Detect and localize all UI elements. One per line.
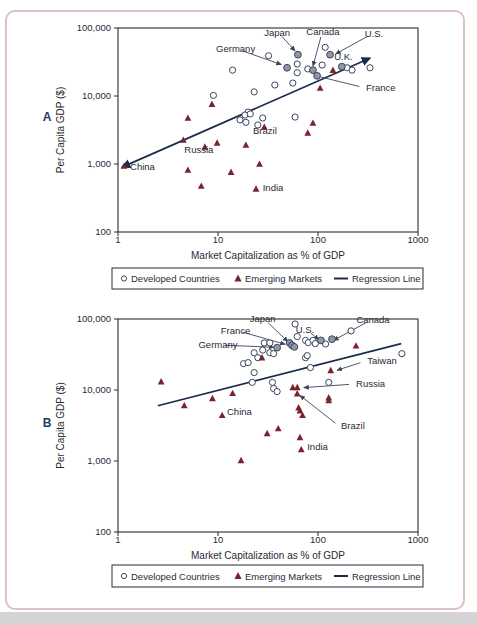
data-point-emerging bbox=[298, 446, 305, 452]
x-tick-label: 1 bbox=[115, 534, 120, 545]
x-tick-label: 10 bbox=[213, 234, 224, 245]
y-axis-title: Per Capita GDP ($) bbox=[55, 382, 66, 469]
data-point-developed-highlighted bbox=[284, 64, 291, 71]
country-label: Germany bbox=[198, 339, 237, 350]
country-label: Canada bbox=[306, 26, 340, 37]
x-tick-label: 1000 bbox=[407, 534, 428, 545]
data-point-developed-highlighted bbox=[274, 344, 281, 351]
scatter-figure-svg: 11010010001001,00010,000100,000Market Ca… bbox=[0, 0, 477, 625]
data-point-developed-highlighted bbox=[314, 72, 321, 79]
data-point-developed bbox=[271, 351, 277, 357]
y-tick-label: 10,000 bbox=[82, 384, 111, 395]
data-point-developed bbox=[243, 119, 249, 125]
country-label: Japan bbox=[264, 27, 290, 38]
country-label-arrow bbox=[321, 77, 359, 86]
data-point-emerging bbox=[310, 119, 317, 125]
country-label: Russia bbox=[184, 144, 214, 155]
data-point-developed bbox=[249, 379, 255, 385]
data-point-emerging bbox=[317, 84, 324, 90]
data-point-developed bbox=[348, 328, 354, 334]
country-label: Germany bbox=[216, 43, 255, 54]
y-tick-label: 10,000 bbox=[82, 90, 111, 101]
legend-circle-icon bbox=[121, 573, 126, 578]
data-point-developed bbox=[237, 117, 243, 123]
data-point-emerging bbox=[353, 342, 360, 348]
data-point-developed bbox=[267, 340, 273, 346]
x-axis-title: Market Capitalization as % of GDP bbox=[191, 250, 345, 261]
data-point-emerging bbox=[275, 425, 282, 431]
data-point-emerging bbox=[184, 114, 191, 120]
y-tick-label: 1,000 bbox=[87, 455, 111, 466]
data-point-emerging bbox=[264, 430, 271, 436]
country-label: Japan bbox=[250, 313, 276, 324]
data-point-developed bbox=[230, 67, 236, 73]
data-point-emerging bbox=[219, 412, 226, 418]
country-label: India bbox=[307, 441, 328, 452]
data-point-emerging bbox=[294, 390, 301, 396]
data-point-developed bbox=[245, 360, 251, 366]
data-point-emerging bbox=[209, 395, 216, 401]
x-tick-label: 100 bbox=[310, 534, 326, 545]
data-point-emerging bbox=[253, 185, 260, 191]
x-tick-label: 1 bbox=[115, 234, 120, 245]
data-point-emerging bbox=[214, 139, 221, 145]
country-label: U.S. bbox=[296, 324, 314, 335]
data-point-developed-highlighted bbox=[291, 343, 298, 350]
country-label: Brazil bbox=[341, 420, 365, 431]
y-tick-label: 100,000 bbox=[77, 313, 111, 324]
country-label-arrow bbox=[313, 37, 321, 66]
panel-letter: A bbox=[43, 110, 52, 124]
y-tick-label: 1,000 bbox=[87, 158, 111, 169]
country-label: France bbox=[221, 325, 251, 336]
data-point-developed bbox=[349, 67, 355, 73]
country-label-arrow bbox=[268, 323, 288, 342]
data-point-developed bbox=[304, 353, 310, 359]
legend-item-label: Developed Countries bbox=[131, 273, 220, 284]
data-point-developed-highlighted bbox=[329, 336, 336, 343]
country-label: Brazil bbox=[253, 125, 277, 136]
data-point-developed bbox=[265, 53, 271, 59]
data-point-developed bbox=[247, 111, 253, 117]
y-tick-label: 100,000 bbox=[77, 22, 111, 33]
data-point-developed bbox=[269, 379, 275, 385]
data-point-developed-highlighted bbox=[318, 337, 325, 344]
data-point-developed bbox=[292, 114, 298, 120]
panel-A: 11010010001001,00010,000100,000Market Ca… bbox=[43, 22, 429, 289]
data-point-emerging bbox=[256, 160, 263, 166]
data-point-developed bbox=[251, 89, 257, 95]
data-point-developed bbox=[367, 65, 373, 71]
regression-line bbox=[158, 344, 401, 406]
x-tick-label: 1000 bbox=[407, 234, 428, 245]
legend-item-label: Regression Line bbox=[352, 571, 421, 582]
data-point-developed bbox=[326, 379, 332, 385]
data-point-emerging bbox=[209, 101, 216, 107]
data-point-developed bbox=[307, 364, 313, 370]
data-point-emerging bbox=[294, 384, 301, 390]
data-point-developed-highlighted bbox=[338, 63, 345, 70]
data-point-emerging bbox=[242, 141, 249, 147]
country-label: China bbox=[130, 161, 156, 172]
country-label: U.S. bbox=[365, 28, 383, 39]
data-point-emerging bbox=[228, 169, 235, 175]
data-point-developed bbox=[260, 347, 266, 353]
data-point-developed bbox=[399, 351, 405, 357]
data-point-emerging bbox=[327, 367, 334, 373]
data-point-emerging bbox=[297, 434, 304, 440]
data-point-developed bbox=[210, 92, 216, 98]
legend-item-label: Emerging Markets bbox=[245, 273, 322, 284]
x-tick-label: 100 bbox=[310, 234, 326, 245]
country-label-arrow bbox=[282, 37, 295, 51]
legend-item-label: Emerging Markets bbox=[245, 571, 322, 582]
data-point-developed bbox=[251, 369, 257, 375]
data-point-developed bbox=[322, 44, 328, 50]
data-point-developed bbox=[272, 82, 278, 88]
data-point-emerging bbox=[184, 166, 191, 172]
country-label: France bbox=[366, 82, 396, 93]
x-tick-label: 10 bbox=[213, 534, 224, 545]
data-point-developed-highlighted bbox=[295, 51, 302, 58]
panel-letter: B bbox=[43, 416, 52, 430]
country-label: Taiwan bbox=[367, 355, 397, 366]
panel-B: 11010010001001,00010,000100,000Market Ca… bbox=[43, 313, 429, 587]
data-point-developed bbox=[274, 388, 280, 394]
country-label: U.K. bbox=[334, 51, 352, 62]
